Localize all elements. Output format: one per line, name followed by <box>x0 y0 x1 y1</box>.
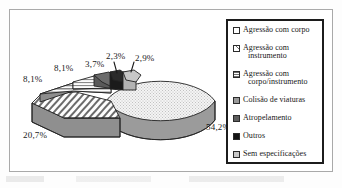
legend-item-colisao-viaturas[interactable]: Colisão de viaturas <box>233 96 319 104</box>
legend-label-colisao-viaturas: Colisão de viaturas <box>243 96 305 104</box>
legend-swatch-agressao-corpo-instrumento <box>233 71 240 78</box>
legend-swatch-outros <box>233 133 240 140</box>
legend-item-outros[interactable]: Outros <box>233 132 319 140</box>
legend-item-agressao-instrumento[interactable]: Agressão com instrumento <box>233 44 319 60</box>
scan-artifact <box>6 176 322 182</box>
chart-frame: 54,2% 20,7% 8,1% 8,1% 3,7% 2,3% 2,9% Agr… <box>9 9 333 172</box>
legend-label-outros: Outros <box>243 132 265 140</box>
legend-label-agressao-corpo-instrumento: Agressão com corpo/instrumento <box>243 70 308 86</box>
chart-page: 54,2% 20,7% 8,1% 8,1% 3,7% 2,3% 2,9% Agr… <box>0 0 342 188</box>
legend-swatch-agressao-corpo <box>233 27 240 34</box>
legend-item-sem-especificacoes[interactable]: Sem especificações <box>233 150 319 158</box>
legend-list: Agressão com corpo Agressão com instrume… <box>233 26 319 158</box>
legend-item-agressao-corpo[interactable]: Agressão com corpo <box>233 26 319 34</box>
legend-swatch-atropelamento <box>233 115 240 122</box>
pie-chart-plot: 54,2% 20,7% 8,1% 8,1% 3,7% 2,3% 2,9% <box>10 10 232 171</box>
pie-chart-svg <box>10 10 232 171</box>
legend-item-agressao-corpo-instrumento[interactable]: Agressão com corpo/instrumento <box>233 70 319 86</box>
legend-label-sem-especificacoes: Sem especificações <box>243 150 306 158</box>
data-label-sem-especificacoes: 2,9% <box>135 53 155 63</box>
legend-swatch-colisao-viaturas <box>233 97 240 104</box>
legend-label-agressao-instrumento: Agressão com instrumento <box>243 44 289 60</box>
legend-swatch-sem-especificacoes <box>233 151 240 158</box>
legend-label-atropelamento: Atropelamento <box>243 114 292 122</box>
legend-label-agressao-corpo: Agressão com corpo <box>243 26 310 34</box>
legend-swatch-agressao-instrumento <box>233 45 240 52</box>
chart-legend: Agressão com corpo Agressão com instrume… <box>226 19 324 164</box>
data-label-colisao-viaturas: 8,1% <box>54 63 74 73</box>
data-label-outros: 2,3% <box>106 51 126 61</box>
data-label-agressao-instrumento: 20,7% <box>23 130 47 140</box>
legend-item-atropelamento[interactable]: Atropelamento <box>233 114 319 122</box>
data-label-atropelamento: 3,7% <box>85 59 105 69</box>
data-label-agressao-corpo-instrumento: 8,1% <box>23 74 43 84</box>
